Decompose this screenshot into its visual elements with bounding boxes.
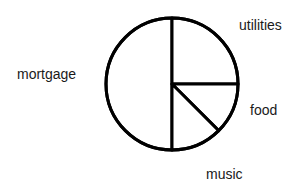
pie-slices-group [106,18,238,150]
slice-label-mortgage: mortgage [17,67,76,81]
slice-label-food: food [250,103,277,117]
pie-slice-mortgage [106,18,172,150]
pie-chart-figure: mortgage utilities food music [0,0,304,193]
slice-label-music: music [206,167,243,181]
slice-label-utilities: utilities [239,18,282,32]
